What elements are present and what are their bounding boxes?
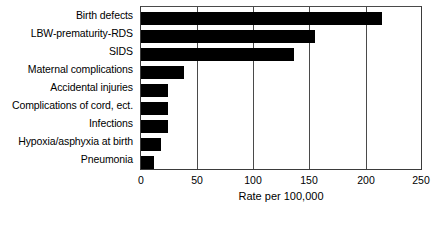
bar-infections xyxy=(141,120,168,133)
bar-pneumonia xyxy=(141,156,154,169)
x-tick-150: 150 xyxy=(289,173,329,187)
bar-complications-of-cord xyxy=(141,102,168,115)
x-tick-200: 200 xyxy=(346,173,386,187)
category-label-pneumonia: Pneumonia xyxy=(0,150,133,168)
bars-layer xyxy=(141,7,421,169)
bar-lbw-prematurity-rds xyxy=(141,30,315,43)
x-axis-tick-labels: 0 50 100 150 200 250 xyxy=(0,173,440,187)
category-label-accidental-injuries: Accidental injuries xyxy=(0,78,133,96)
bar-birth-defects xyxy=(141,12,382,25)
x-axis-title: Rate per 100,000 xyxy=(140,190,422,202)
plot-area xyxy=(140,6,422,170)
category-label-lbw-prematurity-rds: LBW-prematurity-RDS xyxy=(0,24,133,42)
category-label-complications-of-cord: Complications of cord, ect. xyxy=(0,96,133,114)
bar-chart-figure: Birth defects LBW-prematurity-RDS SIDS M… xyxy=(0,0,440,227)
x-tick-100: 100 xyxy=(233,173,273,187)
category-label-hypoxia-asphyxia-at-birth: Hypoxia/asphyxia at birth xyxy=(0,132,133,150)
bar-sids xyxy=(141,48,294,61)
x-tick-0: 0 xyxy=(121,173,161,187)
category-label-maternal-complications: Maternal complications xyxy=(0,60,133,78)
category-label-birth-defects: Birth defects xyxy=(0,6,133,24)
category-label-infections: Infections xyxy=(0,114,133,132)
bar-accidental-injuries xyxy=(141,84,168,97)
category-axis: Birth defects LBW-prematurity-RDS SIDS M… xyxy=(0,6,133,170)
x-tick-50: 50 xyxy=(177,173,217,187)
bar-hypoxia-asphyxia-at-birth xyxy=(141,138,161,151)
bar-maternal-complications xyxy=(141,66,184,79)
category-label-sids: SIDS xyxy=(0,42,133,60)
x-tick-250: 250 xyxy=(401,173,440,187)
